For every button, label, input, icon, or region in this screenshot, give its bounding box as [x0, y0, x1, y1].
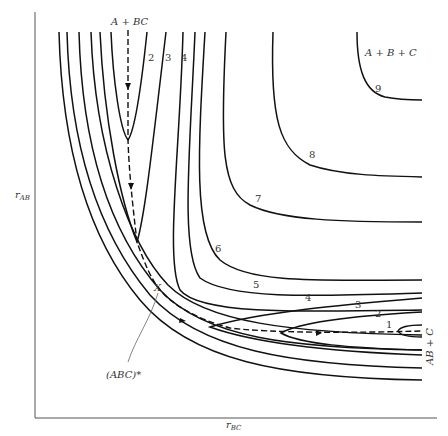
- x-axis-label: rBC: [226, 419, 242, 432]
- contour-label-3: 3: [355, 299, 361, 310]
- contour-label-5: 5: [253, 279, 259, 290]
- potential-energy-diagram: rAB rBC X (ABC)* A: [0, 0, 448, 436]
- y-axis-label: rAB: [15, 189, 30, 202]
- contour-label-1: 1: [386, 319, 392, 330]
- contour-label-6: 6: [215, 243, 221, 254]
- contour-labels: 2 3 4 6 7 8 9 5 4 3 2 1: [148, 52, 392, 330]
- axes: [35, 12, 437, 418]
- contour-label-9: 9: [375, 83, 381, 94]
- contour-7: [223, 32, 422, 222]
- contour-5: [188, 32, 422, 295]
- contour-label-2: 2: [375, 308, 381, 319]
- arrow-icon: [128, 183, 134, 190]
- reactants-label: A + BC: [110, 16, 148, 27]
- saddle-label: (ABC)*: [106, 369, 141, 380]
- dissociated-label: A + B + C: [364, 47, 417, 58]
- contour-label-2-top: 2: [148, 52, 154, 63]
- contour-label-4: 4: [305, 292, 311, 303]
- contour-label-4-top: 4: [181, 52, 187, 63]
- contour-4: [173, 32, 422, 311]
- saddle-marker: X: [153, 282, 162, 293]
- saddle-point: X (ABC)*: [106, 282, 162, 380]
- upper-contours: [173, 32, 422, 311]
- reaction-path-line: [128, 30, 422, 332]
- contour-label-3-top: 3: [165, 52, 171, 63]
- contour-label-8: 8: [309, 149, 315, 160]
- arrow-icon: [125, 83, 131, 90]
- contour-label-7: 7: [255, 193, 261, 204]
- products-label: AB + C: [424, 328, 435, 366]
- contour-9: [357, 32, 422, 100]
